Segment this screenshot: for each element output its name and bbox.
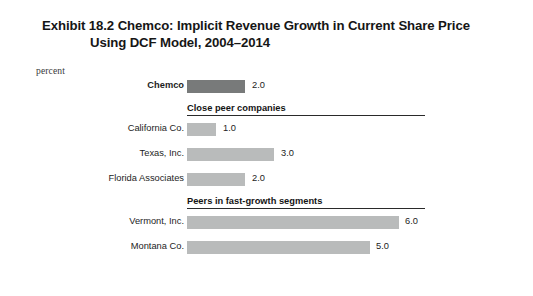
table-row: Florida Associates 2.0 — [0, 173, 533, 186]
section-rule — [187, 208, 425, 209]
bar-value: 2.0 — [252, 79, 265, 92]
bar-chemco — [187, 80, 245, 93]
bar-montana-co — [187, 241, 370, 254]
bar-chart: Chemco 2.0 Close peer companies Californ… — [0, 0, 533, 296]
bar-value: 1.0 — [223, 122, 236, 135]
bar-value: 5.0 — [376, 240, 389, 253]
bar-value: 6.0 — [405, 215, 418, 228]
bar-florida-associates — [187, 173, 245, 186]
section-title: Peers in fast-growth segments — [187, 196, 322, 207]
bar-label: California Co. — [40, 122, 184, 135]
bar-label: Montana Co. — [40, 240, 184, 253]
bar-label: Florida Associates — [40, 172, 184, 185]
bar-label: Texas, Inc. — [40, 147, 184, 160]
section-title: Close peer companies — [187, 103, 286, 114]
table-row: Chemco 2.0 — [0, 80, 533, 93]
table-row: Vermont, Inc. 6.0 — [0, 216, 533, 229]
bar-label: Chemco — [40, 79, 184, 92]
section-header-fast-growth: Peers in fast-growth segments — [187, 196, 425, 211]
bar-value: 3.0 — [281, 147, 294, 160]
bar-texas-inc — [187, 148, 274, 161]
section-header-close-peers: Close peer companies — [187, 103, 425, 118]
section-rule — [187, 115, 425, 116]
exhibit-page: Exhibit 18.2 Chemco: Implicit Revenue Gr… — [0, 0, 533, 296]
bar-vermont-inc — [187, 216, 399, 229]
table-row: Texas, Inc. 3.0 — [0, 148, 533, 161]
table-row: Montana Co. 5.0 — [0, 241, 533, 254]
bar-value: 2.0 — [252, 172, 265, 185]
bar-label: Vermont, Inc. — [40, 215, 184, 228]
bar-california-co — [187, 123, 216, 136]
table-row: California Co. 1.0 — [0, 123, 533, 136]
